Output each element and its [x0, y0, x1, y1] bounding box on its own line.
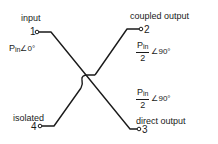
port-1-label: input — [21, 13, 41, 23]
port-1-signal: Pin∠0° — [9, 43, 35, 55]
through-path-1-to-3 — [39, 32, 137, 129]
port-2-terminal-icon — [139, 27, 143, 31]
port-3-terminal-icon — [137, 127, 141, 131]
port-4-label: isolated — [13, 113, 44, 123]
port-1-number: 1 — [30, 27, 36, 37]
port-3-number: 3 — [142, 125, 148, 135]
port-2-label: coupled output — [130, 11, 189, 21]
through-path-2-to-4 — [42, 29, 139, 126]
port-3-signal: Pin 2 ∠90° — [136, 87, 171, 110]
port-4-number: 4 — [31, 122, 37, 132]
port-4-terminal-icon — [38, 124, 42, 128]
port-2-signal: Pin 2 ∠90° — [136, 40, 171, 63]
port-2-number: 2 — [144, 25, 150, 35]
